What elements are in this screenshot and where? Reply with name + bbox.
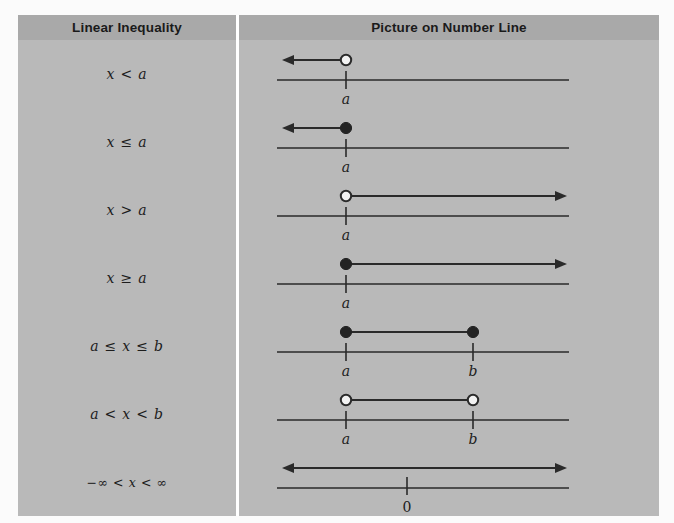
inequality-label: x ≥ a <box>107 270 148 286</box>
closed-endpoint-a <box>340 326 351 337</box>
inequality-label: −∞ < x < ∞ <box>86 475 167 490</box>
number-line-cell: a <box>239 108 659 176</box>
number-line-row-6: a b <box>239 380 659 448</box>
number-line-cell: a <box>239 176 659 244</box>
number-line-cell: 0 <box>239 448 659 516</box>
endpoint-label-a: a <box>342 227 350 243</box>
table-body: x < a a <box>18 40 659 516</box>
open-endpoint-a <box>341 191 351 201</box>
inequality-cell: x ≥ a <box>18 244 239 312</box>
number-line-row-7: 0 <box>239 448 659 516</box>
inequality-cell: x < a <box>18 40 239 108</box>
endpoint-label-a: a <box>342 295 350 311</box>
endpoint-label-b: b <box>469 431 478 447</box>
table-header-row: Linear Inequality Picture on Number Line <box>18 15 659 40</box>
inequality-cell: x > a <box>18 176 239 244</box>
open-endpoint-a <box>341 55 351 65</box>
table-header: Linear Inequality Picture on Number Line <box>18 15 659 40</box>
arrowhead-right-icon <box>555 259 567 269</box>
closed-endpoint-a <box>340 122 351 133</box>
inequality-cell: a < x < b <box>18 380 239 448</box>
column-header-picture-on-number-line: Picture on Number Line <box>239 15 659 40</box>
column-header-linear-inequality: Linear Inequality <box>18 15 239 40</box>
inequality-cell: a ≤ x ≤ b <box>18 312 239 380</box>
arrowhead-right-icon <box>555 463 567 473</box>
closed-endpoint-b <box>467 326 478 337</box>
endpoint-label-a: a <box>342 159 350 175</box>
arrowhead-right-icon <box>555 191 567 201</box>
number-line-cell: a <box>239 40 659 108</box>
closed-endpoint-a <box>340 258 351 269</box>
inequality-cell: x ≤ a <box>18 108 239 176</box>
open-endpoint-b <box>468 395 478 405</box>
table-row: x > a a <box>18 176 659 244</box>
inequality-label: a ≤ x ≤ b <box>90 338 164 354</box>
endpoint-label-a: a <box>342 91 350 107</box>
inequality-cell: −∞ < x < ∞ <box>18 448 239 516</box>
arrowhead-left-icon <box>282 55 294 65</box>
inequality-label: a < x < b <box>90 406 164 422</box>
inequality-label: x < a <box>107 66 148 82</box>
number-line-row-3: a <box>239 176 659 244</box>
inequality-label: x ≤ a <box>107 134 148 150</box>
open-endpoint-a <box>341 395 351 405</box>
endpoint-label-b: b <box>469 363 478 379</box>
inequality-label: x > a <box>107 202 148 218</box>
table-row: x ≥ a a <box>18 244 659 312</box>
endpoint-label-a: a <box>342 363 350 379</box>
table-row: x ≤ a a <box>18 108 659 176</box>
number-line-row-5: a b <box>239 312 659 380</box>
table-row: a ≤ x ≤ b a <box>18 312 659 380</box>
number-line-cell: a b <box>239 380 659 448</box>
number-line-row-2: a <box>239 108 659 176</box>
table-row: x < a a <box>18 40 659 108</box>
number-line-row-4: a <box>239 244 659 312</box>
number-line-cell: a <box>239 244 659 312</box>
number-line-cell: a b <box>239 312 659 380</box>
number-line-row-1: a <box>239 40 659 108</box>
table-row: a < x < b a <box>18 380 659 448</box>
inequality-table-container: Linear Inequality Picture on Number Line… <box>18 15 656 515</box>
arrowhead-left-icon <box>282 123 294 133</box>
endpoint-label-zero: 0 <box>403 499 412 515</box>
endpoint-label-a: a <box>342 431 350 447</box>
arrowhead-left-icon <box>282 463 294 473</box>
table-row: −∞ < x < ∞ 0 <box>18 448 659 516</box>
inequality-table: Linear Inequality Picture on Number Line… <box>18 15 659 516</box>
